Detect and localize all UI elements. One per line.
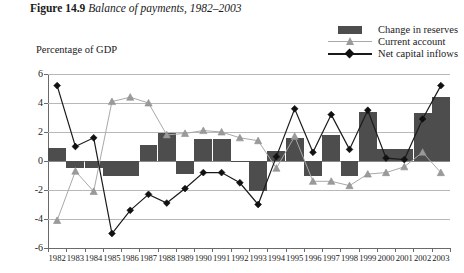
x-tick-label: 1989 [176, 254, 193, 263]
x-tick-mark [121, 248, 122, 252]
figure-container: Figure 14.9 Balance of payments, 1982–20… [0, 0, 464, 273]
triangle-marker [54, 217, 61, 224]
line-series-layer [48, 74, 450, 248]
diamond-marker [310, 149, 317, 156]
triangle-marker [72, 168, 79, 175]
x-tick-label: 1983 [67, 254, 84, 263]
diamond-marker [419, 116, 426, 123]
plot-area: 6420-2-4-6 [48, 74, 450, 248]
x-tick-mark [432, 248, 433, 252]
x-tick-label: 1982 [49, 254, 66, 263]
legend-item-current-account: Current account [328, 36, 458, 47]
legend-item-change-in-reserves: Change in reserves [328, 24, 458, 35]
triangle-marker [273, 165, 280, 172]
figure-caption: Figure 14.9 Balance of payments, 1982–20… [30, 2, 242, 14]
x-tick-mark [395, 248, 396, 252]
x-tick-mark [249, 248, 250, 252]
x-tick-mark [212, 248, 213, 252]
chart-legend: Change in reserves Current account Net c… [328, 24, 458, 59]
x-tick-label: 2001 [396, 254, 413, 263]
legend-label: Net capital inflows [372, 48, 458, 59]
diamond-marker [218, 169, 225, 176]
y-tick-label: -4 [35, 214, 43, 224]
y-tick-label: -6 [35, 243, 43, 253]
x-tick-label: 1984 [85, 254, 102, 263]
x-tick-label: 1991 [213, 254, 230, 263]
diamond-marker [90, 134, 97, 141]
line-series [54, 82, 445, 237]
triangle-marker [236, 134, 243, 141]
diamond-marker [437, 82, 444, 89]
y-tick-label: 0 [38, 156, 43, 166]
line-triangle-marker-icon [328, 36, 372, 47]
x-tick-label: 1999 [359, 254, 376, 263]
diamond-marker [328, 111, 335, 118]
y-tick-label: 6 [38, 69, 43, 79]
x-tick-mark [66, 248, 67, 252]
diamond-marker [401, 156, 408, 163]
legend-label: Change in reserves [372, 24, 458, 35]
x-tick-mark [359, 248, 360, 252]
x-tick-label: 1988 [158, 254, 175, 263]
figure-title: Balance of payments, 1982–2003 [88, 2, 241, 14]
x-tick-mark [322, 248, 323, 252]
x-tick-mark [158, 248, 159, 252]
x-tick-mark [377, 248, 378, 252]
bar-swatch-icon [328, 24, 372, 35]
x-tick-label: 2002 [414, 254, 431, 263]
triangle-marker [127, 94, 134, 101]
y-tick-label: -2 [35, 185, 43, 195]
x-tick-label: 1985 [103, 254, 120, 263]
x-tick-mark [139, 248, 140, 252]
diamond-marker [383, 155, 390, 162]
triangle-marker [145, 99, 152, 106]
legend-item-net-capital-inflows: Net capital inflows [328, 48, 458, 59]
x-tick-mark [304, 248, 305, 252]
x-tick-label: 1992 [231, 254, 248, 263]
x-tick-mark [267, 248, 268, 252]
line-diamond-marker-icon [328, 48, 372, 59]
x-tick-label: 1993 [250, 254, 267, 263]
diamond-marker [72, 143, 79, 150]
x-tick-label: 2003 [432, 254, 449, 263]
y-tick-label: 2 [38, 127, 43, 137]
x-tick-label: 1990 [195, 254, 212, 263]
x-axis: 1982198319841985198619871988198919901991… [48, 248, 450, 273]
x-tick-label: 1997 [323, 254, 340, 263]
x-tick-mark [450, 248, 451, 252]
x-tick-label: 1986 [122, 254, 139, 263]
series-line [57, 86, 441, 234]
triangle-marker [419, 149, 426, 156]
x-tick-label: 1998 [341, 254, 358, 263]
x-tick-mark [231, 248, 232, 252]
x-tick-label: 1987 [140, 254, 157, 263]
y-axis-title: Percentage of GDP [36, 44, 117, 55]
legend-label: Current account [372, 36, 445, 47]
x-tick-mark [48, 248, 49, 252]
x-tick-label: 2000 [377, 254, 394, 263]
x-tick-label: 1996 [304, 254, 321, 263]
x-tick-mark [176, 248, 177, 252]
triangle-marker [291, 133, 298, 140]
diamond-marker [273, 153, 280, 160]
x-tick-mark [286, 248, 287, 252]
diamond-marker [54, 82, 61, 89]
y-tick-label: 4 [38, 98, 43, 108]
x-tick-mark [413, 248, 414, 252]
x-tick-mark [340, 248, 341, 252]
diamond-marker [364, 107, 371, 114]
diamond-marker [346, 146, 353, 153]
x-tick-mark [85, 248, 86, 252]
diamond-marker [291, 105, 298, 112]
x-tick-label: 1994 [268, 254, 285, 263]
figure-number: Figure 14.9 [30, 2, 85, 14]
x-tick-mark [103, 248, 104, 252]
x-tick-mark [194, 248, 195, 252]
x-tick-label: 1995 [286, 254, 303, 263]
